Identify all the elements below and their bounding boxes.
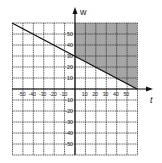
x-tick-label: 40 [113, 91, 119, 97]
x-tick-label: 20 [92, 91, 98, 97]
inequality-graph: w t -50-40-30-20-101020304050 5040302010… [0, 0, 162, 163]
x-tick-label: -30 [39, 91, 47, 97]
x-tick-label: 30 [103, 91, 109, 97]
y-tick-label: 10 [67, 75, 73, 81]
y-tick-label: -10 [66, 97, 74, 103]
y-tick-label: 50 [67, 31, 73, 37]
x-axis-label: t [150, 95, 153, 105]
x-tick-label: 50 [123, 91, 129, 97]
y-tick-label: 40 [67, 42, 73, 48]
x-tick-labels: -50-40-30-20-101020304050 [18, 91, 129, 97]
x-tick-label: -10 [60, 91, 68, 97]
y-tick-label: 30 [67, 53, 73, 59]
y-tick-label: -50 [66, 141, 74, 147]
y-tick-label: -30 [66, 119, 74, 125]
x-tick-label: -50 [18, 91, 26, 97]
x-tick-label: -40 [29, 91, 37, 97]
y-tick-label: 20 [67, 64, 73, 70]
y-axis-label: w [79, 7, 87, 17]
x-tick-label: -20 [49, 91, 57, 97]
y-tick-label: -40 [66, 130, 74, 136]
x-tick-label: 10 [82, 91, 88, 97]
y-axis-arrow-icon [73, 7, 78, 14]
y-tick-label: -20 [66, 108, 74, 114]
x-axis-arrow-icon [146, 87, 153, 92]
